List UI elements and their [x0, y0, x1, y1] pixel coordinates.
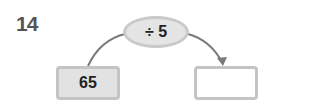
answer-box[interactable]	[194, 66, 258, 100]
input-value: 65	[79, 74, 97, 92]
operation-oval: ÷ 5	[123, 16, 189, 48]
input-box: 65	[56, 66, 120, 100]
left-connector	[88, 34, 125, 66]
operation-label: ÷ 5	[145, 23, 167, 41]
right-arrow	[188, 34, 222, 62]
arrowhead-icon	[217, 57, 227, 66]
